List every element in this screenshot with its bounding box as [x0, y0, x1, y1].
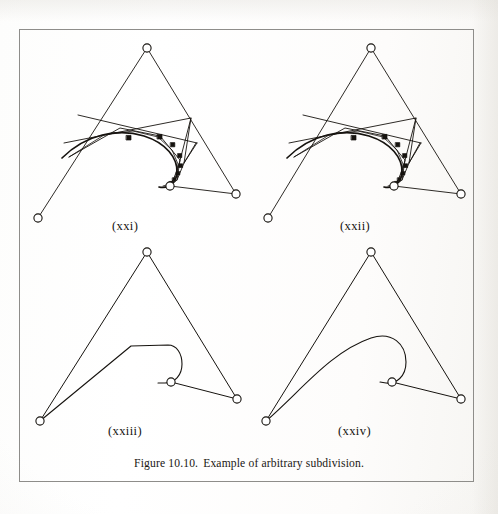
figure-caption: Figure 10.10.Example of arbitrary subdiv…	[0, 457, 498, 470]
caption-number: Figure 10.10.	[134, 457, 198, 470]
panel-label-xxiv: (xxiv)	[338, 424, 371, 439]
scan-shadow-right	[472, 0, 498, 514]
figure-page: (xxi) (xxii) (xxiii) (xxiv) Figure 10.10…	[0, 0, 498, 514]
scan-shadow-top	[0, 0, 498, 22]
panel-label-xxiii: (xxiii)	[108, 424, 142, 439]
caption-text: Example of arbitrary subdivision.	[203, 457, 364, 470]
figure-border	[19, 29, 474, 482]
panel-label-xxii: (xxii)	[340, 219, 370, 234]
panel-label-xxi: (xxi)	[112, 219, 138, 234]
